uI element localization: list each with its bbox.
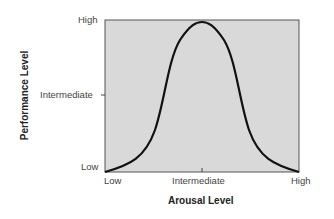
plot-area xyxy=(105,20,299,172)
y-tick-label-high: High xyxy=(78,14,98,25)
x-tick-label-high: High xyxy=(291,175,311,186)
y-tick-label-intermediate: Intermediate xyxy=(40,89,93,100)
y-tick-label-low: Low xyxy=(81,161,98,172)
x-axis-title: Arousal Level xyxy=(168,195,234,206)
x-tick-label-intermediate: Intermediate xyxy=(172,175,225,186)
x-tick-label-low: Low xyxy=(104,175,121,186)
y-axis-title: Performance Level xyxy=(19,46,30,146)
chart-svg xyxy=(0,0,334,219)
